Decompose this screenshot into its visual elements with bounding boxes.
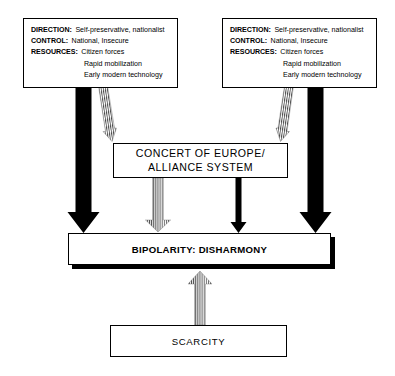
right-actor-key-control: CONTROL: [230, 36, 267, 47]
right-actor-box: DIRECTION: Self-preservative, nationalis… [222, 18, 377, 88]
left-actor-row-resources: RESOURCES: Citizen forces [31, 47, 177, 58]
left-actor-box: DIRECTION: Self-preservative, nationalis… [23, 18, 178, 88]
right-actor-value-resources: Citizen forces [280, 47, 323, 58]
institution-box: CONCERT OF EUROPE/ ALLIANCE SYSTEM [113, 143, 288, 178]
right-actor-key-resources: RESOURCES: [230, 47, 277, 58]
left-actor-key-direction: DIRECTION: [31, 25, 72, 36]
right-actor-row-control: CONTROL: National, Insecure [230, 36, 376, 47]
left-actor-key-control: CONTROL: [31, 36, 68, 47]
constraint-box: SCARCITY [110, 325, 287, 357]
right-actor-row-resources: RESOURCES: Citizen forces [230, 47, 376, 58]
left-actor-value-resources: Citizen forces [81, 47, 124, 58]
institution-to-outcome-hatched-arrow [146, 178, 171, 232]
right-actor-value-direction: Self-preservative, nationalist [274, 25, 363, 36]
left-actor-value-direction: Self-preservative, nationalist [75, 25, 164, 36]
left-actor-subvalue-2: Early modern technology [84, 70, 177, 81]
right-actor-to-outcome-arrow [300, 86, 332, 233]
left-actor-to-institution-arrow [99, 86, 117, 142]
scarcity-to-outcome-arrow [188, 271, 212, 325]
left-actor-row-control: CONTROL: National, Insecure [31, 36, 177, 47]
constraint-box-label: SCARCITY [172, 336, 225, 347]
left-actor-key-resources: RESOURCES: [31, 47, 78, 58]
diagram-canvas: DIRECTION: Self-preservative, nationalis… [0, 0, 395, 376]
outcome-box-label: BIPOLARITY: DISHARMONY [132, 244, 267, 255]
right-actor-subvalue-1: Rapid mobilization [283, 59, 376, 70]
right-actor-key-direction: DIRECTION: [230, 25, 271, 36]
outcome-box: BIPOLARITY: DISHARMONY [68, 233, 331, 265]
institution-box-line1: CONCERT OF EUROPE/ [136, 147, 265, 161]
right-actor-row-direction: DIRECTION: Self-preservative, nationalis… [230, 25, 376, 36]
left-actor-subvalue-1: Rapid mobilization [84, 59, 177, 70]
institution-box-text: CONCERT OF EUROPE/ ALLIANCE SYSTEM [136, 147, 265, 174]
left-actor-to-outcome-arrow [68, 86, 100, 233]
institution-to-outcome-solid-arrow [231, 178, 247, 233]
right-actor-subvalue-2: Early modern technology [283, 70, 376, 81]
right-actor-to-institution-arrow [276, 86, 294, 142]
right-actor-value-control: National, Insecure [271, 36, 328, 47]
left-actor-value-control: National, Insecure [72, 36, 129, 47]
institution-box-line2: ALLIANCE SYSTEM [136, 161, 265, 175]
left-actor-row-direction: DIRECTION: Self-preservative, nationalis… [31, 25, 177, 36]
